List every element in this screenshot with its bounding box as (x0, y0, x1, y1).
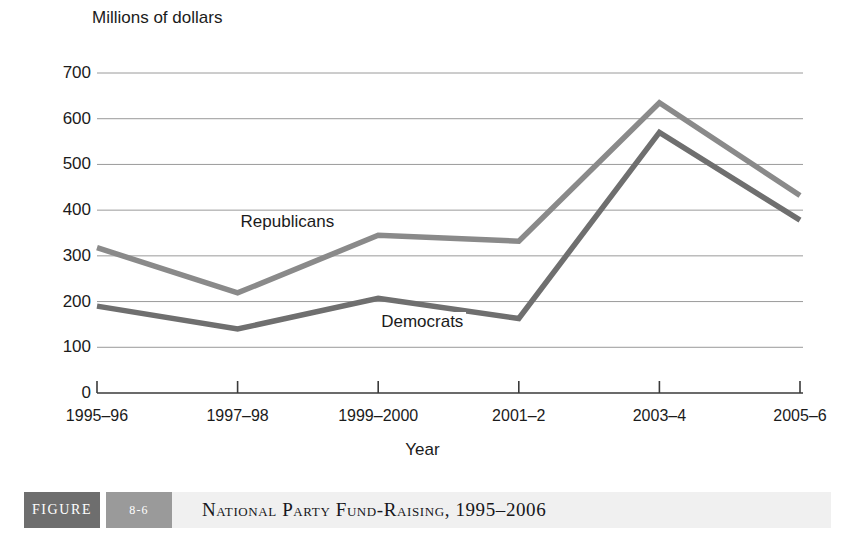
x-axis-tick-label: 2003–4 (633, 407, 686, 425)
y-axis-tick-label: 600 (45, 110, 91, 127)
series-line-democrats (97, 132, 800, 329)
series-label-republicans: Republicans (238, 212, 338, 232)
y-axis-tick-label: 400 (45, 201, 91, 218)
x-axis-title-text: Year (405, 440, 439, 460)
data-series (97, 103, 800, 329)
x-axis-title: Year (0, 440, 855, 460)
line-chart: Millions of dollars 01002003004005006007… (0, 0, 855, 480)
y-axis-tick-label: 300 (45, 247, 91, 264)
figure-container: Millions of dollars 01002003004005006007… (0, 0, 855, 546)
series-label-democrats: Democrats (378, 312, 466, 332)
caption-title-text: National Party Fund-Raising, 1995–2006 (172, 492, 831, 528)
y-axis-tick-label: 500 (45, 155, 91, 172)
caption-figure-number: 8-6 (106, 492, 172, 528)
series-line-republicans (97, 103, 800, 293)
x-axis-tick-label: 1999–2000 (338, 407, 418, 425)
x-axis-tick-label: 2001–2 (492, 407, 545, 425)
y-axis-tick-label: 200 (45, 293, 91, 310)
figure-caption-bar: FIGURE 8-6 National Party Fund-Raising, … (24, 492, 831, 528)
axis-lines (97, 381, 803, 393)
y-axis-tick-label: 700 (45, 64, 91, 81)
y-axis-tick-label: 100 (45, 338, 91, 355)
x-axis-tick-label: 2005–6 (773, 407, 826, 425)
x-axis-tick-label: 1997–98 (206, 407, 268, 425)
caption-figure-label: FIGURE (24, 492, 100, 528)
y-axis-tick-label: 0 (45, 384, 91, 401)
x-axis-tick-label: 1995–96 (66, 407, 128, 425)
chart-plot-svg (0, 0, 855, 480)
